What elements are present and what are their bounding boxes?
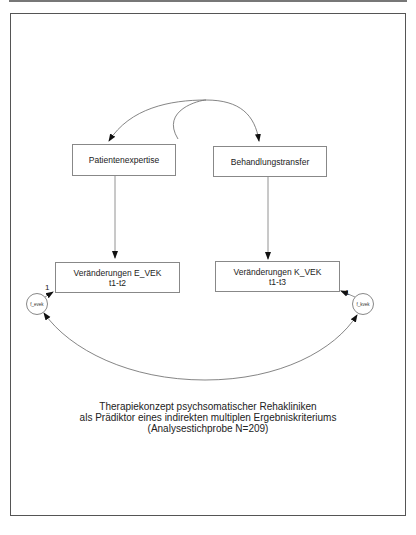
node-label-line2: t1-t3 xyxy=(269,277,286,287)
figure-caption: Therapiekonzept psychsomatischer Rehakli… xyxy=(40,401,376,434)
node-label-line1: Veränderungen E_VEK xyxy=(74,268,162,278)
caption-line-1: Therapiekonzept psychsomatischer Rehakli… xyxy=(40,401,376,412)
error-label: f_kvek xyxy=(356,302,369,307)
error-node-f-evek: f_evek xyxy=(26,293,48,315)
node-label: Patientenexpertise xyxy=(89,155,159,165)
node-veraenderungen-k-vek: Veränderungen K_VEK t1-t3 xyxy=(215,261,340,292)
path-weight-k: 1 xyxy=(345,288,349,297)
path-weight-e: 1 xyxy=(45,283,49,292)
node-label-line1: Veränderungen K_VEK xyxy=(234,267,322,277)
node-veraenderungen-e-vek: Veränderungen E_VEK t1-t2 xyxy=(55,262,180,293)
node-label: Behandlungstransfer xyxy=(231,157,309,167)
error-label: f_evek xyxy=(30,302,43,307)
caption-line-2: als Prädiktor eines indirekten multiplen… xyxy=(40,412,376,423)
node-patientenexpertise: Patientenexpertise xyxy=(72,144,176,176)
error-node-f-kvek: f_kvek xyxy=(352,293,374,315)
node-behandlungstransfer: Behandlungstransfer xyxy=(213,146,327,177)
node-label-line2: t1-t2 xyxy=(109,278,126,288)
caption-line-3: (Analysestichprobe N=209) xyxy=(40,423,376,434)
